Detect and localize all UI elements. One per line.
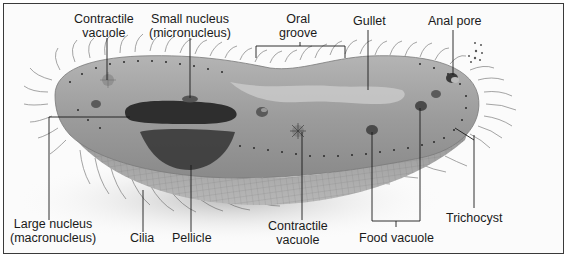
expelled-particles [468, 42, 483, 63]
label-contractile-vacuole-top: Contractile vacuole [74, 12, 134, 40]
label-micronucleus: Small nucleus (micronucleus) [149, 12, 231, 40]
label-line: Anal pore [428, 14, 482, 28]
label-line: Oral [279, 12, 317, 26]
label-line: Small nucleus [149, 12, 231, 26]
label-line: groove [279, 26, 317, 40]
label-line: (macronucleus) [10, 231, 96, 245]
label-oral-groove: Oral groove [279, 12, 317, 40]
label-line: vacuole [74, 26, 134, 40]
label-line: Large nucleus [10, 217, 96, 231]
label-line: Food vacuole [359, 231, 434, 245]
label-line: Trichocyst [446, 211, 503, 225]
bracket-oral-groove [256, 42, 345, 58]
label-pellicle: Pellicle [172, 231, 212, 245]
label-line: Pellicle [172, 231, 212, 245]
label-line: Cilia [130, 231, 154, 245]
contractile-vacuole-posterior [290, 123, 306, 139]
label-line: Contractile [74, 12, 134, 26]
label-line: vacuole [268, 233, 328, 247]
label-gullet: Gullet [353, 14, 386, 28]
label-contractile-vacuole-bottom: Contractile vacuole [268, 219, 328, 247]
label-trichocyst: Trichocyst [446, 211, 503, 225]
label-macronucleus: Large nucleus (macronucleus) [10, 217, 96, 245]
label-line: Contractile [268, 219, 328, 233]
label-line: (micronucleus) [149, 26, 231, 40]
label-line: Gullet [353, 14, 386, 28]
label-cilia: Cilia [130, 231, 154, 245]
label-food-vacuole: Food vacuole [359, 231, 434, 245]
label-anal-pore: Anal pore [428, 14, 482, 28]
